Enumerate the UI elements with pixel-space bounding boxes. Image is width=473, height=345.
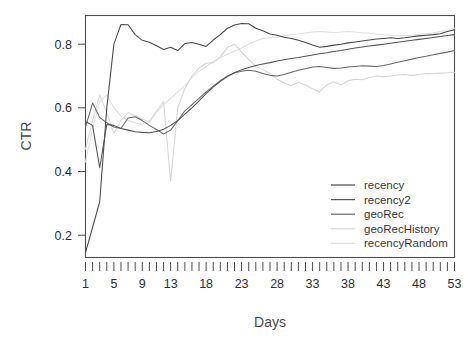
- x-tick-label: 18: [199, 277, 213, 291]
- x-tick-label: 48: [412, 277, 426, 291]
- y-tick-label: 0.6: [55, 101, 72, 115]
- y-axis-title: CTR: [18, 122, 34, 151]
- ctr-vs-days-line-chart: 0.20.40.60.8 159131823283338434853 CTR D…: [0, 0, 473, 345]
- x-tick-label: 28: [270, 277, 284, 291]
- legend-label-recency2: recency2: [364, 194, 411, 206]
- x-tick-label: 43: [377, 277, 391, 291]
- y-tick-label: 0.2: [55, 229, 72, 243]
- legend-label-geoRec: geoRec: [364, 208, 404, 220]
- y-tick-label: 0.4: [55, 165, 72, 179]
- chart-container: 0.20.40.60.8 159131823283338434853 CTR D…: [0, 0, 473, 345]
- x-axis-title: Days: [254, 314, 286, 330]
- x-tick-label: 53: [448, 277, 462, 291]
- legend-label-recency: recency: [364, 179, 405, 191]
- x-tick-label: 5: [110, 277, 117, 291]
- x-tick-label: 9: [139, 277, 146, 291]
- x-tick-label: 1: [82, 277, 89, 291]
- legend-label-recencyRandom: recencyRandom: [364, 237, 448, 249]
- x-tick-label: 38: [341, 277, 355, 291]
- x-tick-label: 13: [164, 277, 178, 291]
- x-tick-label: 23: [235, 277, 249, 291]
- y-tick-label: 0.8: [55, 38, 72, 52]
- legend-label-geoRecHistory: geoRecHistory: [364, 223, 440, 235]
- x-tick-label: 33: [306, 277, 320, 291]
